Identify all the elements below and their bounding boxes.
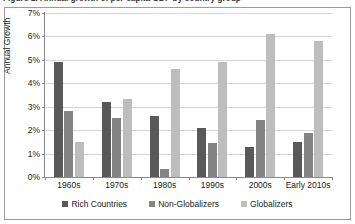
y-tick-label: 0% [28, 172, 40, 182]
chart-legend: Rich CountriesNon-GlobalizersGlobalizers [0, 199, 355, 209]
figure-caption: Figure 1: Annual growth of per-capita GD… [3, 0, 241, 3]
x-tick-label: 2000s [249, 180, 272, 190]
legend-swatch-icon [149, 201, 155, 207]
y-tick-label: 6% [28, 31, 40, 41]
legend-item[interactable]: Globalizers [241, 199, 293, 209]
bar [293, 142, 302, 177]
legend-label: Globalizers [250, 199, 293, 209]
legend-label: Non-Globalizers [158, 199, 219, 209]
y-tick-label: 2% [28, 125, 40, 135]
bar [314, 41, 323, 177]
x-tick-label: 1970s [105, 180, 128, 190]
y-tick-label: 5% [28, 55, 40, 65]
x-tick-label: 1980s [153, 180, 176, 190]
x-tick-label: 1990s [201, 180, 224, 190]
legend-swatch-icon [241, 201, 247, 207]
x-tick-mark [93, 177, 94, 180]
legend-label: Rich Countries [71, 199, 127, 209]
x-tick-mark [332, 177, 333, 180]
x-axis: 1960s1970s1980s1990s2000sEarly 2010s [45, 180, 332, 194]
legend-swatch-icon [62, 201, 68, 207]
bar-group [45, 13, 332, 177]
x-tick-mark [189, 177, 190, 180]
x-tick-label: Early 2010s [286, 180, 331, 190]
chart-screenshot: Figure 1: Annual growth of per-capita GD… [0, 0, 355, 224]
legend-item[interactable]: Non-Globalizers [149, 199, 219, 209]
y-tick-label: 7% [28, 8, 40, 18]
x-tick-label: 1960s [57, 180, 80, 190]
x-tick-mark [236, 177, 237, 180]
bar [304, 133, 313, 178]
y-tick-label: 1% [28, 149, 40, 159]
figure-caption-strip: Figure 1: Annual growth of per-capita GD… [0, 0, 355, 6]
x-tick-mark [45, 177, 46, 180]
y-tick-label: 3% [28, 102, 40, 112]
x-tick-mark [141, 177, 142, 180]
y-tick-label: 4% [28, 78, 40, 88]
y-axis-title: Annual Growth [2, 46, 12, 60]
legend-item[interactable]: Rich Countries [62, 199, 127, 209]
y-axis-title-label: Annual Growth [2, 60, 12, 74]
plot-area: 0%1%2%3%4%5%6%7% [45, 13, 332, 177]
